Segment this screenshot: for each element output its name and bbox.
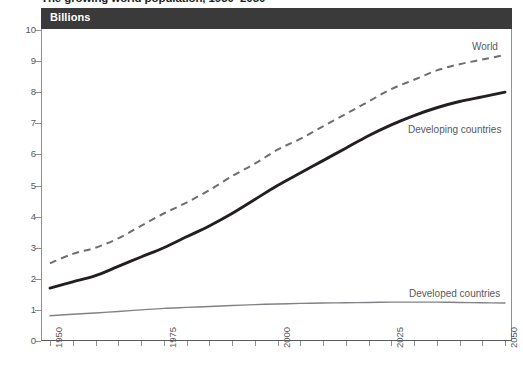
series-label-developed: Developed countries bbox=[407, 288, 502, 299]
series-lines bbox=[0, 0, 523, 389]
series-line-world bbox=[50, 55, 505, 263]
series-line-developed bbox=[50, 302, 505, 316]
series-line-developing bbox=[50, 92, 505, 288]
chart-page: The growing world population, 1950–2050 … bbox=[0, 0, 523, 389]
series-label-developing: Developing countries bbox=[406, 124, 503, 135]
series-label-world: World bbox=[470, 41, 500, 52]
